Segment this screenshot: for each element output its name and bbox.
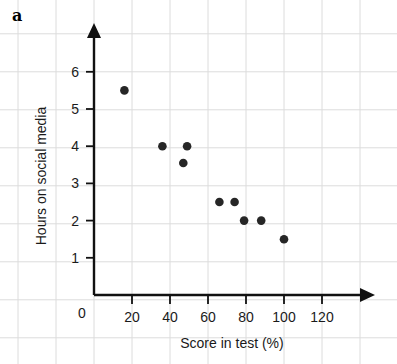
x-tick-label: 60	[200, 309, 216, 325]
data-point	[257, 216, 266, 225]
x-tick-label: 20	[124, 309, 140, 325]
x-tick-label: 100	[272, 309, 296, 325]
x-axis-ticks: 20406080100120	[124, 295, 334, 325]
y-tick-label: 6	[71, 64, 79, 80]
y-tick-label: 1	[71, 250, 79, 266]
origin-tick-label: 0	[78, 305, 86, 321]
y-tick-label: 2	[71, 213, 79, 229]
x-tick-label: 120	[310, 309, 334, 325]
plot-area: 123456 20406080100120 0 Score in test (%…	[0, 0, 397, 364]
data-point	[179, 159, 188, 168]
x-axis-title: Score in test (%)	[180, 335, 283, 351]
data-point	[240, 216, 249, 225]
data-point	[230, 198, 239, 207]
x-axis-arrow-icon	[360, 288, 375, 302]
data-point	[120, 86, 129, 95]
data-point	[158, 142, 167, 151]
x-tick-label: 40	[162, 309, 178, 325]
data-point	[215, 198, 224, 207]
x-tick-label: 80	[238, 309, 254, 325]
data-point	[183, 142, 192, 151]
y-axis-arrow-icon	[87, 23, 101, 38]
scatter-plot-figure: a 123456 20406080100120 0 Score in test …	[0, 0, 397, 364]
y-tick-label: 4	[71, 138, 79, 154]
y-axis-title: Hours on social media	[33, 107, 49, 246]
y-tick-label: 5	[71, 101, 79, 117]
y-tick-label: 3	[71, 175, 79, 191]
data-points-group	[120, 86, 288, 243]
data-point	[280, 235, 289, 244]
y-axis-ticks: 123456	[71, 64, 94, 266]
